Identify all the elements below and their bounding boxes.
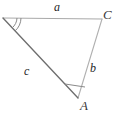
- triangle-drawing: [0, 0, 119, 117]
- side-label-c: c: [24, 65, 29, 77]
- side-label-b: b: [90, 62, 96, 74]
- triangle-figure: C A a b c: [0, 0, 119, 117]
- side-a-line: [3, 18, 102, 19]
- side-label-a: a: [54, 1, 60, 13]
- vertex-label-c: C: [103, 8, 112, 21]
- side-c-line: [3, 18, 78, 98]
- vertex-label-a: A: [80, 99, 88, 112]
